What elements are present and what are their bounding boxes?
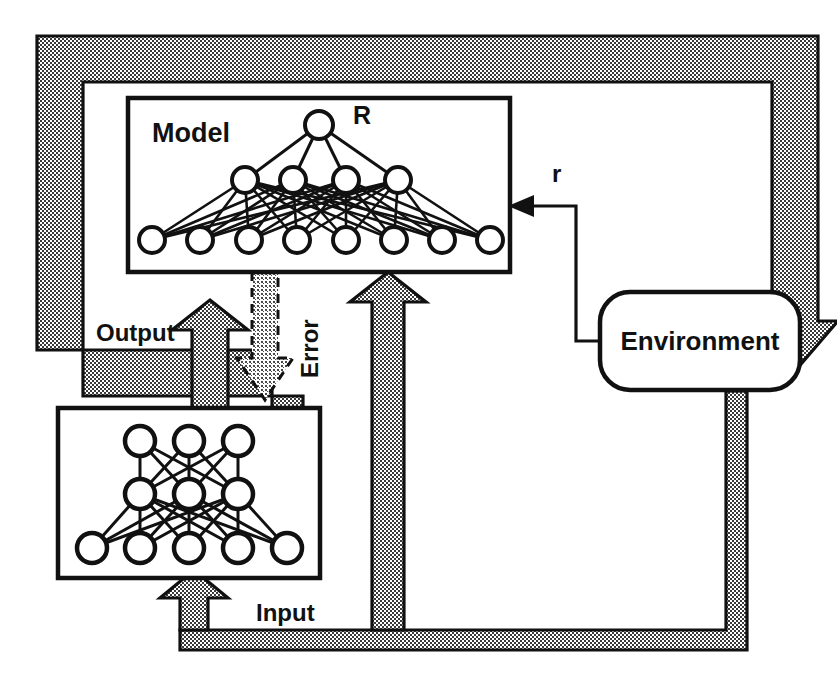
model-label: Model: [152, 118, 230, 148]
controller-block: [58, 408, 320, 578]
environment-block: Environment: [600, 292, 800, 390]
reward-label: r: [552, 160, 561, 187]
block-diagram-svg: Model R: [0, 0, 837, 681]
diagram-canvas: Model R: [0, 0, 837, 681]
input-branch-model-arrow: [350, 272, 426, 630]
environment-label: Environment: [621, 326, 780, 356]
error-label: Error: [296, 319, 323, 378]
controller-hidden-nodes: [125, 479, 253, 509]
reward-signal-line: [508, 195, 600, 341]
model-block: Model R: [128, 98, 510, 272]
input-label: Input: [256, 599, 315, 626]
model-output-node-R: [305, 111, 333, 139]
output-label: Output: [96, 319, 175, 346]
model-output-node-label: R: [353, 101, 371, 129]
controller-top-nodes: [125, 426, 253, 456]
